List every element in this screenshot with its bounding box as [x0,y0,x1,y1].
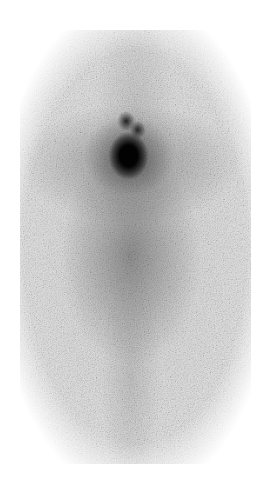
image-noise-texture [20,30,251,464]
scintigraphy-image [20,30,251,464]
